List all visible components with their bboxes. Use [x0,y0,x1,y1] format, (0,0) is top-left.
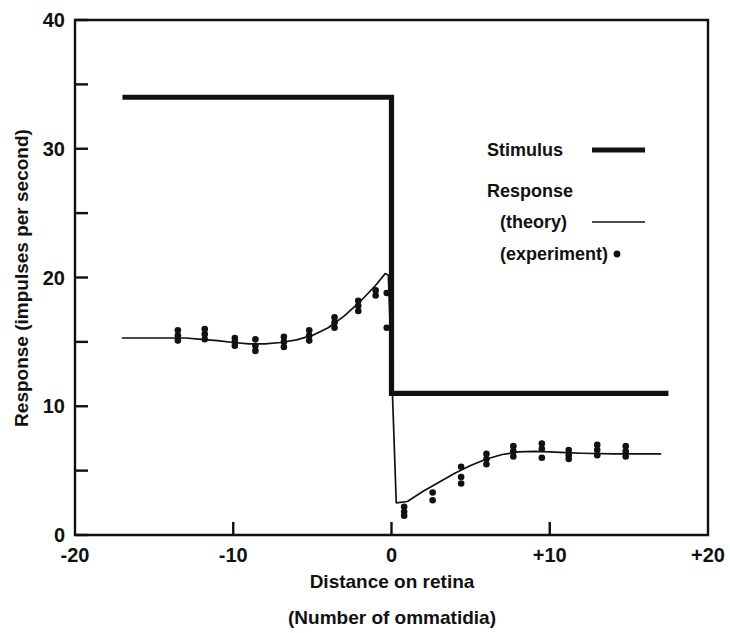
data-point [383,324,390,331]
data-point [539,454,546,461]
legend-label-theory: (theory) [500,212,567,232]
data-point [252,348,259,355]
x-tick-label: -10 [219,544,248,566]
data-point [565,456,572,463]
data-point [306,337,313,344]
data-point [401,512,408,519]
data-point [458,474,465,481]
x-tick-label: +20 [691,544,725,566]
x-tick-label: 0 [386,544,397,566]
data-point [458,480,465,487]
data-point [594,452,601,459]
x-tick-label: -20 [61,544,90,566]
data-point [201,336,208,343]
y-axis-tick-labels: 010203040 [43,9,65,546]
data-point [281,344,288,351]
data-point [232,342,239,349]
chart-legend: Stimulus Response (theory) (experiment) [487,140,645,264]
y-tick-label: 0 [54,524,65,546]
x-axis-tick-labels: -20-100+10+20 [61,544,725,566]
data-point [175,337,182,344]
data-point [383,290,390,297]
series-response-experiment [175,287,629,519]
data-point [331,324,338,331]
x-axis-subtitle: (Number of ommatidia) [288,607,496,628]
data-point [539,445,546,452]
data-point [429,497,436,504]
data-point [355,308,362,315]
x-axis-title: Distance on retina [310,571,475,592]
data-point [483,461,490,468]
data-point [429,489,436,496]
y-tick-label: 20 [43,267,65,289]
data-point [372,292,379,299]
legend-swatch-experiment [614,251,621,258]
y-axis-ticks [75,20,88,535]
figure-container: 010203040 -20-100+10+20 Response (impuls… [0,0,730,633]
y-axis-title: Response (impulses per second) [11,129,32,427]
data-point [252,336,259,343]
y-tick-label: 40 [43,9,65,31]
legend-label-response: Response [487,181,573,201]
legend-label-experiment: (experiment) [500,244,608,264]
data-point [510,453,517,460]
chart-canvas: 010203040 -20-100+10+20 Response (impuls… [0,0,730,633]
x-tick-label: +10 [533,544,567,566]
data-point [458,463,465,470]
y-tick-label: 10 [43,395,65,417]
x-axis-ticks [233,522,550,535]
legend-label-stimulus: Stimulus [487,140,563,160]
data-point [622,453,629,460]
y-tick-label: 30 [43,138,65,160]
